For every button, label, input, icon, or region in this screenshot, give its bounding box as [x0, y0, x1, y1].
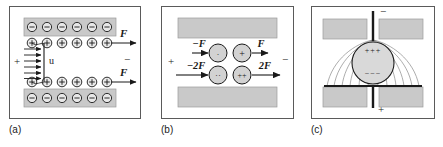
panel-a-diagram: u F F + −: [10, 7, 140, 118]
caption-c: (c): [311, 124, 323, 135]
force-label-2f: 2F: [258, 60, 271, 71]
terminal-negative-c: −: [380, 7, 386, 17]
terminal-positive-a: +: [14, 55, 20, 67]
terminal-positive-b: +: [168, 55, 174, 67]
force-label-minus-f: −F: [192, 38, 205, 49]
panel-c-diagram: +++ −−− − +: [312, 7, 434, 118]
charge-single-positive: +: [233, 44, 251, 62]
plate-top-c-left: [323, 19, 367, 39]
panel-a: u F F + −: [9, 6, 141, 119]
svg-text:·: ·: [217, 49, 220, 59]
velocity-label: u: [49, 55, 54, 66]
force-label-lower: F: [119, 66, 128, 78]
force-label-upper: F: [119, 27, 128, 39]
terminal-negative-b: −: [282, 53, 288, 65]
sphere-positive-charge: +++: [365, 46, 382, 55]
plate-bottom-c-left: [323, 87, 367, 107]
svg-text:··: ··: [215, 70, 221, 80]
terminal-positive-c: +: [378, 103, 384, 115]
sphere-negative-charge: −−−: [365, 69, 382, 78]
charge-double-negative: ··: [209, 66, 227, 84]
svg-text:++: ++: [237, 71, 247, 80]
velocity-arrows: [24, 49, 41, 79]
force-label-f: F: [256, 38, 264, 49]
plate-top-c-right: [379, 19, 423, 39]
plate-bottom-b: [178, 87, 277, 107]
caption-b: (b): [161, 124, 173, 135]
plate-bottom-c-right: [379, 87, 423, 107]
plate-top-b: [178, 18, 277, 38]
charge-double-positive: ++: [233, 66, 251, 84]
terminal-negative-a: −: [124, 53, 130, 65]
upper-positive-charges: [27, 38, 112, 48]
force-label-minus-2f: −2F: [187, 60, 206, 71]
panel-c: +++ −−− − +: [311, 6, 435, 119]
svg-text:+: +: [239, 48, 245, 59]
caption-a: (a): [9, 124, 21, 135]
panel-b: · −F + F ·· −2F: [161, 6, 294, 119]
panel-b-diagram: · −F + F ·· −2F: [162, 7, 293, 118]
figure-electrostatic-forces: u F F + − (a): [0, 0, 443, 147]
charge-single-negative: ·: [209, 44, 227, 62]
